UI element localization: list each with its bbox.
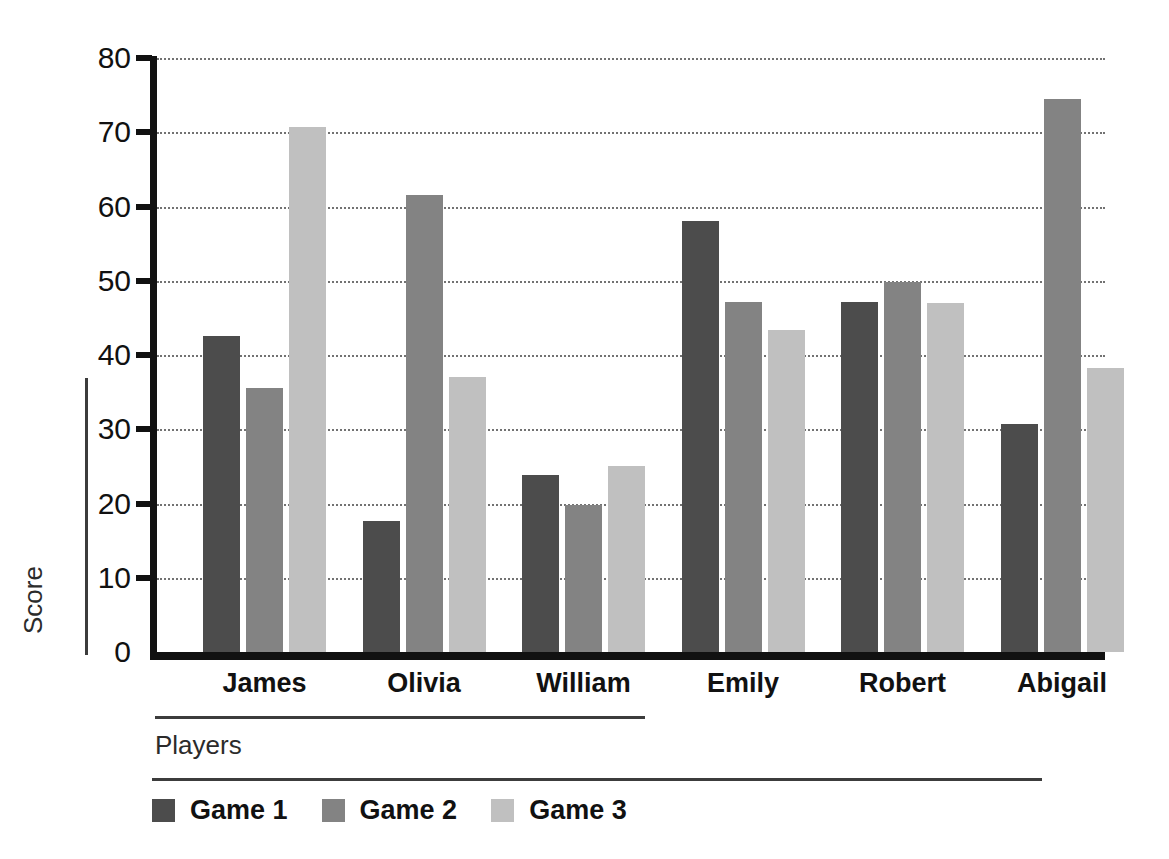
legend: Game 1Game 2Game 3: [152, 795, 661, 826]
y-axis-tick-label: 60: [0, 190, 131, 224]
x-axis-tick-label: James: [222, 668, 306, 699]
gridline: [157, 58, 1105, 60]
y-axis-tick: [136, 501, 152, 507]
y-axis-tick: [136, 55, 152, 61]
bar: [1001, 424, 1038, 652]
x-axis-tick-label: Robert: [859, 668, 946, 699]
bar: [1087, 368, 1124, 652]
y-axis-tick-label: 20: [0, 487, 131, 521]
y-axis-tick: [136, 278, 152, 284]
bar: [565, 505, 602, 652]
bar: [1044, 99, 1081, 652]
plot-area: [157, 58, 1105, 652]
y-axis-tick: [136, 426, 152, 432]
y-axis-tick-label: 80: [0, 41, 131, 75]
x-axis-tick-label: Emily: [707, 668, 779, 699]
x-axis-line: [150, 652, 1105, 660]
y-axis-tick: [136, 575, 152, 581]
legend-swatch-icon: [152, 799, 175, 822]
bar: [449, 377, 486, 652]
bar: [927, 303, 964, 652]
x-axis-tick-label: William: [536, 668, 630, 699]
bar: [406, 195, 443, 652]
y-axis-title: Score: [18, 540, 49, 660]
y-axis-tick: [136, 204, 152, 210]
y-axis-tick: [136, 352, 152, 358]
legend-swatch-icon: [322, 799, 345, 822]
y-axis-tick-label: 30: [0, 412, 131, 446]
legend-label: Game 3: [529, 795, 627, 826]
x-axis-title-rule: [155, 716, 645, 719]
legend-swatch-icon: [491, 799, 514, 822]
bar: [682, 221, 719, 652]
legend-label: Game 1: [190, 795, 288, 826]
bar: [363, 521, 400, 652]
legend-item[interactable]: Game 3: [491, 795, 627, 826]
x-axis-title: Players: [155, 730, 242, 761]
bar-chart: 01020304050607080 JamesOliviaWilliamEmil…: [0, 0, 1169, 859]
bar: [768, 330, 805, 652]
y-axis-tick-label: 40: [0, 338, 131, 372]
bar: [289, 127, 326, 652]
bar: [608, 466, 645, 652]
bar: [246, 388, 283, 652]
legend-label: Game 2: [360, 795, 458, 826]
y-axis-title-rule: [85, 378, 88, 655]
y-axis-tick: [136, 129, 152, 135]
legend-item[interactable]: Game 1: [152, 795, 288, 826]
y-axis-tick-label: 70: [0, 115, 131, 149]
bar: [522, 475, 559, 652]
legend-item[interactable]: Game 2: [322, 795, 458, 826]
x-axis-tick-label: Olivia: [387, 668, 461, 699]
bar: [203, 336, 240, 652]
y-axis-tick-label: 50: [0, 264, 131, 298]
x-axis-tick-label: Abigail: [1017, 668, 1107, 699]
bar: [884, 282, 921, 652]
bar: [841, 302, 878, 652]
bar: [725, 302, 762, 652]
legend-rule: [152, 778, 1042, 781]
